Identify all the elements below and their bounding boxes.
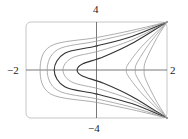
contour-plot — [0, 0, 188, 139]
x-min-label: −2 — [7, 65, 19, 76]
y-max-label: 4 — [93, 4, 99, 15]
x-max-label: 2 — [170, 65, 176, 76]
y-min-label: −4 — [88, 123, 100, 134]
